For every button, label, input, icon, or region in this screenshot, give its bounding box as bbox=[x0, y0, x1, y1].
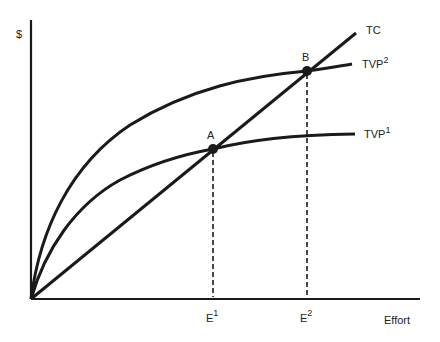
tvp2-label: TVP2 bbox=[362, 55, 388, 70]
point-a-label: A bbox=[207, 129, 215, 141]
tc-label: TC bbox=[366, 24, 381, 36]
x-axis-label: Effort bbox=[384, 314, 410, 326]
e2-tick-label: E2 bbox=[300, 308, 312, 324]
point-b-marker bbox=[302, 66, 312, 76]
tvp2-curve bbox=[31, 64, 352, 299]
tvp1-label: TVP1 bbox=[364, 125, 390, 140]
point-a-marker bbox=[208, 144, 218, 154]
y-axis-label: $ bbox=[16, 28, 22, 40]
e1-tick-label: E1 bbox=[206, 308, 218, 324]
effort-diagram: $ Effort TC TVP2 TVP1 A B E1 E2 bbox=[0, 0, 440, 342]
point-b-label: B bbox=[302, 51, 309, 63]
